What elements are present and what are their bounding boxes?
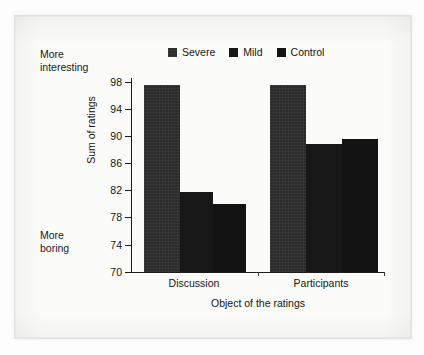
y-tick-mark-70 [125,272,131,273]
chart-figure: Severe Mild Control More interesting Mor… [0,0,424,355]
bar-discussion-control[interactable] [213,204,246,272]
bar-participants-control[interactable] [342,139,378,272]
annotation-more-boring: More boring [40,229,69,255]
y-tick-mark-74 [125,245,131,246]
bar-participants-mild[interactable] [306,144,342,272]
bar-discussion-mild[interactable] [180,192,213,272]
legend-item-severe: Severe [168,47,215,58]
legend-swatch-mild [229,48,238,57]
y-tick-label-70: 70 [96,266,122,278]
y-tick-mark-94 [125,109,131,110]
x-tick-mark-end [384,272,385,276]
legend-label-mild: Mild [243,47,262,58]
y-axis-title: Sum of ratings [85,70,97,190]
x-axis-title: Object of the ratings [131,297,385,309]
y-tick-mark-86 [125,163,131,164]
legend-swatch-control [277,48,286,57]
bar-discussion-severe[interactable] [144,85,180,272]
x-category-label-participants: Participants [258,277,384,289]
chart-legend: Severe Mild Control [168,47,324,58]
y-tick-label-74: 74 [96,239,122,251]
y-tick-mark-82 [125,190,131,191]
x-category-label-discussion: Discussion [131,277,257,289]
bar-participants-severe[interactable] [270,85,306,272]
legend-item-mild: Mild [229,47,262,58]
legend-swatch-severe [168,48,177,57]
bars-layer [132,78,385,272]
legend-label-control: Control [291,47,325,58]
y-tick-label-86: 86 [96,157,122,169]
y-tick-label-82: 82 [96,184,122,196]
y-tick-mark-78 [125,217,131,218]
y-tick-label-94: 94 [96,103,122,115]
y-tick-mark-90 [125,136,131,137]
y-tick-mark-98 [125,82,131,83]
y-tick-label-98: 98 [96,76,122,88]
x-tick-mark-mid [258,272,259,276]
y-tick-label-90: 90 [96,130,122,142]
annotation-more-interesting: More interesting [40,48,88,74]
legend-label-severe: Severe [182,47,215,58]
y-tick-label-78: 78 [96,211,122,223]
legend-item-control: Control [277,47,325,58]
